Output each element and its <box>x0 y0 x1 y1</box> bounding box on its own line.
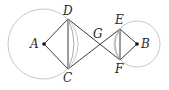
segment-eb <box>120 29 137 44</box>
label-c: C <box>63 71 72 85</box>
segment-ac <box>44 44 68 69</box>
label-g: G <box>93 27 103 41</box>
label-b: B <box>140 37 150 51</box>
geometry-diagram: A B C D E F G <box>0 0 169 90</box>
segment-fb <box>120 44 137 60</box>
label-a: A <box>29 37 39 51</box>
label-d: D <box>62 4 73 18</box>
label-f: F <box>114 62 124 76</box>
point-b <box>135 42 139 46</box>
arc-ef <box>115 29 120 60</box>
label-e: E <box>114 13 124 27</box>
point-a <box>42 42 46 46</box>
segment-ad <box>44 19 68 44</box>
